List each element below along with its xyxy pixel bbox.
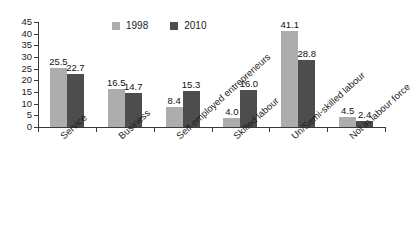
y-tick-label: 30 — [21, 51, 32, 62]
y-tick-label: 20 — [21, 74, 32, 85]
bar-value-label: 15.3 — [182, 80, 201, 90]
y-tick-mark — [34, 34, 38, 35]
bar-group: 41.128.8 — [281, 22, 315, 127]
y-tick-mark — [34, 69, 38, 70]
bar-value-label: 41.1 — [281, 20, 300, 30]
bar-group: 16.514.7 — [108, 22, 142, 127]
bar-1998 — [281, 31, 298, 127]
y-tick-label: 40 — [21, 28, 32, 39]
x-tick-mark — [96, 127, 97, 132]
x-tick-mark — [212, 127, 213, 132]
bar-group: 8.415.3 — [166, 22, 200, 127]
bar-value-label: 8.4 — [167, 96, 180, 106]
bar-1998 — [166, 107, 183, 127]
y-tick-label: 35 — [21, 39, 32, 50]
bar-value-label: 28.8 — [298, 49, 317, 59]
y-tick-label: 5 — [27, 109, 32, 120]
y-tick-label: 15 — [21, 86, 32, 97]
y-tick-mark — [34, 45, 38, 46]
y-tick-mark — [34, 92, 38, 93]
y-tick-label: 45 — [21, 16, 32, 27]
bar-value-label: 4.0 — [225, 107, 238, 117]
y-tick-label: 0 — [27, 121, 32, 132]
bar-value-label: 22.7 — [66, 63, 85, 73]
y-tick-mark — [34, 115, 38, 116]
x-tick-mark — [269, 127, 270, 132]
bar-value-label: 14.7 — [124, 82, 143, 92]
y-axis-line — [38, 22, 39, 127]
bar-1998 — [108, 89, 125, 128]
y-tick-label: 10 — [21, 98, 32, 109]
y-tick-mark — [34, 22, 38, 23]
bar-group: 25.522.7 — [50, 22, 84, 127]
x-tick-mark — [154, 127, 155, 132]
x-tick-mark — [385, 127, 386, 132]
y-tick-mark — [34, 104, 38, 105]
x-tick-mark — [327, 127, 328, 132]
y-tick-mark — [34, 80, 38, 81]
y-tick-label: 25 — [21, 63, 32, 74]
x-tick-mark — [38, 127, 39, 132]
bar-value-label: 4.5 — [341, 106, 354, 116]
bar-value-label: 16.5 — [107, 78, 126, 88]
y-tick-mark — [34, 57, 38, 58]
bar-1998 — [50, 68, 67, 128]
bar-value-label: 25.5 — [49, 57, 68, 67]
